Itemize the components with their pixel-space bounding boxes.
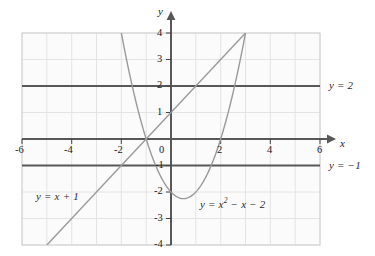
annotation-parabola-equation: y = x2 − x − 2 (200, 196, 265, 210)
x-tick-label--2: -2 (114, 144, 123, 155)
y-tick-label--4: -4 (154, 238, 163, 249)
x-axis-arrow-icon (327, 135, 336, 144)
x-tick-label-0: 0 (159, 144, 164, 155)
graph-figure (0, 0, 375, 256)
y-tick-label-3: 3 (157, 53, 162, 64)
x-tick-label-6: 6 (317, 144, 322, 155)
parabola-eq-base: y = x (200, 198, 224, 210)
y-tick-label--1: -1 (155, 159, 164, 170)
x-axis-label: x (340, 137, 345, 149)
y-tick-label-2: 2 (157, 79, 162, 90)
y-tick-label--2: -2 (154, 185, 163, 196)
y-tick-label-1: 1 (157, 106, 162, 117)
annotation-y-equals-2: y = 2 (329, 79, 353, 91)
y-tick-label--3: -3 (154, 212, 163, 223)
y-axis-arrow-icon (167, 11, 176, 20)
x-tick-label--6: -6 (15, 144, 24, 155)
x-tick-label-2: 2 (217, 144, 222, 155)
y-axis-label: y (158, 5, 163, 17)
parabola-eq-tail: − x − 2 (228, 198, 266, 210)
x-tick-label-4: 4 (267, 144, 272, 155)
x-tick-label--4: -4 (64, 144, 73, 155)
y-tick-label-4: 4 (157, 27, 162, 38)
annotation-y-equals-minus-1: y = −1 (329, 159, 361, 171)
annotation-line-equation: y = x + 1 (36, 190, 79, 202)
